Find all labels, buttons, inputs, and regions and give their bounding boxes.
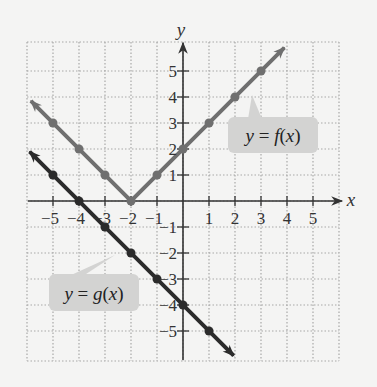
x-tick-label: 3 xyxy=(257,209,266,228)
x-tick-label: −2 xyxy=(119,209,137,228)
function-graph: −5−4−3−2−11234554321−1−2−3−4−5yxy = f(x)… xyxy=(0,0,377,387)
label-pointer xyxy=(69,255,115,276)
label-pointer xyxy=(248,95,262,119)
x-tick-label: 4 xyxy=(283,209,292,228)
y-tick-label: 4 xyxy=(169,88,178,107)
data-point xyxy=(205,119,214,128)
data-point xyxy=(231,93,240,102)
y-tick-label: 1 xyxy=(169,166,178,185)
y-tick-label: −2 xyxy=(159,244,177,263)
data-point xyxy=(75,145,84,154)
y-tick-label: 2 xyxy=(169,140,178,159)
data-point xyxy=(153,171,162,180)
labels: −5−4−3−2−11234554321−1−2−3−4−5yxy = f(x)… xyxy=(41,19,356,341)
y-tick-label: −3 xyxy=(159,270,177,289)
data-point xyxy=(179,301,188,310)
y-tick-label: 3 xyxy=(169,114,178,133)
x-axis-label: x xyxy=(346,189,356,210)
x-tick-label: 1 xyxy=(205,209,214,228)
data-point xyxy=(205,327,214,336)
data-point xyxy=(75,197,84,206)
y-tick-label: −4 xyxy=(159,296,178,315)
y-tick-label: −1 xyxy=(159,218,177,237)
data-point xyxy=(127,249,136,258)
x-tick-label: 2 xyxy=(231,209,240,228)
data-point xyxy=(127,197,136,206)
function-label: y = g(x) xyxy=(62,283,123,305)
data-point xyxy=(101,171,110,180)
x-tick-label: −5 xyxy=(41,209,59,228)
x-tick-label: 5 xyxy=(309,209,318,228)
y-tick-label: −5 xyxy=(159,322,177,341)
x-tick-label: −3 xyxy=(93,209,111,228)
data-point xyxy=(49,119,58,128)
data-point xyxy=(179,145,188,154)
data-point xyxy=(257,67,266,76)
x-tick-label: −4 xyxy=(67,209,86,228)
y-tick-label: 5 xyxy=(169,62,178,81)
data-point xyxy=(49,171,58,180)
y-axis-label: y xyxy=(175,19,186,40)
function-label: y = f(x) xyxy=(243,125,300,147)
